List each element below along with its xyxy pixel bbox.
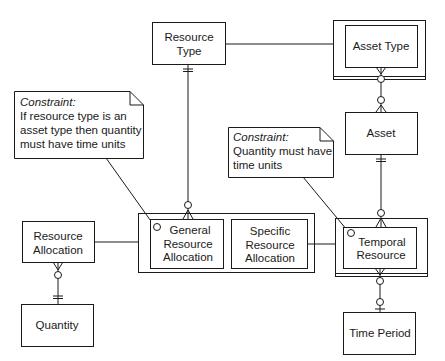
optional-circle-icon <box>377 299 384 306</box>
constraint-1-title: Constraint: <box>20 96 76 108</box>
gra-label-2: Resource <box>163 238 212 250</box>
constraint-anchor-icon <box>348 230 355 237</box>
resource-type-label-1: Resource <box>164 31 213 43</box>
resource-type-label-2: Type <box>177 45 202 57</box>
sra-label-3: Allocation <box>245 252 295 264</box>
optional-circle-icon <box>378 97 385 104</box>
resource-allocation-label-1: Resource <box>33 230 82 242</box>
constraint-1-line-3: must have time units <box>20 138 126 150</box>
resource-type-entity[interactable] <box>153 23 226 65</box>
constraint-2-line-2: time units <box>233 159 282 171</box>
optional-circle-icon <box>378 210 385 217</box>
asset-type-label: Asset Type <box>353 40 410 52</box>
temporal-resource-label-2: Resource <box>356 249 405 261</box>
constraint-2-line-1: Quantity must have <box>233 145 332 157</box>
gra-label-3: Allocation <box>163 251 213 263</box>
temporal-resource-label-1: Temporal <box>358 236 405 248</box>
optional-circle-icon <box>55 272 62 279</box>
resource-allocation-entity[interactable] <box>23 222 95 263</box>
optional-circle-icon <box>185 202 192 209</box>
constraint-2-title: Constraint: <box>233 131 289 143</box>
time-period-label: Time Period <box>349 327 411 339</box>
constraint-1-line-1: If resource type is an <box>20 110 127 122</box>
constraint-anchor-icon <box>154 224 161 231</box>
sra-label-1: Specific <box>250 225 291 237</box>
er-diagram: Resource Type Asset Type Asset Resource … <box>0 0 445 361</box>
constraint-1-line-2: asset type then quantity <box>20 124 142 136</box>
sra-label-2: Resource <box>245 239 294 251</box>
optional-circle-icon <box>377 278 384 285</box>
constraint-2-connector <box>303 177 347 230</box>
resource-allocation-label-2: Allocation <box>33 244 83 256</box>
asset-label: Asset <box>367 127 397 139</box>
gra-label-1: General <box>170 224 211 236</box>
constraint-1-connector <box>106 158 153 224</box>
quantity-label: Quantity <box>36 319 79 331</box>
optional-circle-icon <box>378 76 385 83</box>
